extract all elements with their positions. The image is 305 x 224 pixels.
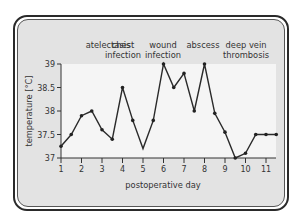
data-point-marker xyxy=(151,119,155,123)
x-tick-label: 2 xyxy=(79,165,84,174)
x-tick-label: 5 xyxy=(140,165,145,174)
x-axis-label: postoperative day xyxy=(125,180,200,190)
data-point-marker xyxy=(182,72,186,76)
x-tick-label: 6 xyxy=(161,165,166,174)
x-tick-label: 1 xyxy=(58,165,63,174)
x-tick-label: 4 xyxy=(120,165,125,174)
data-point-marker xyxy=(80,114,84,118)
data-point-marker xyxy=(172,86,176,90)
data-point-marker xyxy=(162,62,166,66)
temperature-chart: 3737.53838.5391234567891011 atelectasis … xyxy=(0,0,305,224)
data-point-marker xyxy=(110,137,114,141)
data-point-marker xyxy=(274,133,278,137)
data-point-marker xyxy=(69,133,73,137)
annotation-chest-infection-line2: infection xyxy=(105,50,141,60)
data-point-marker xyxy=(59,144,63,148)
data-point-marker xyxy=(121,86,125,90)
annotation-deep-vein-thrombosis-line2: thrombosis xyxy=(223,50,269,60)
data-point-marker xyxy=(192,109,196,113)
data-point-marker xyxy=(233,156,237,160)
annotation-wound-infection-line1: wound xyxy=(149,40,177,50)
annotation-abscess: abscess xyxy=(187,40,220,50)
x-tick-label: 9 xyxy=(222,165,227,174)
x-tick-label: 11 xyxy=(261,165,271,174)
annotation-deep-vein-thrombosis-line1: deep vein xyxy=(226,40,267,50)
y-tick-label: 38 xyxy=(45,107,55,116)
data-point-marker xyxy=(213,112,217,116)
data-point-marker xyxy=(90,109,94,113)
data-point-marker xyxy=(254,133,258,137)
data-point-marker xyxy=(223,130,227,134)
data-point-marker xyxy=(100,128,104,132)
data-point-marker xyxy=(244,152,248,156)
data-point-marker xyxy=(203,62,207,66)
annotation-wound-infection-line2: infection xyxy=(145,50,181,60)
x-tick-label: 7 xyxy=(181,165,186,174)
y-tick-label: 37.5 xyxy=(37,131,55,140)
y-tick-label: 39 xyxy=(45,60,55,69)
data-point-marker xyxy=(131,119,135,123)
y-tick-label: 38.5 xyxy=(37,84,55,93)
y-tick-label: 37 xyxy=(45,154,55,163)
data-point-marker xyxy=(264,133,268,137)
x-tick-label: 8 xyxy=(202,165,207,174)
y-axis-label: temperature [°C] xyxy=(24,75,34,146)
annotation-chest-infection-line1: chest xyxy=(112,40,135,50)
x-tick-label: 3 xyxy=(99,165,104,174)
x-tick-label: 10 xyxy=(240,165,250,174)
